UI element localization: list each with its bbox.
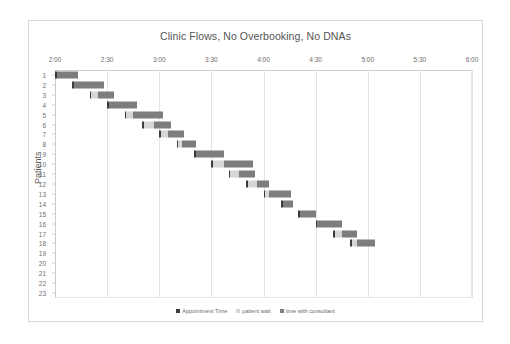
x-tick-label: 3:00 [153,56,166,63]
bar-segment-time-with-consultant [133,111,163,118]
gridline [420,70,421,298]
y-tick-label: 12 [39,181,46,188]
legend-swatch-icon [236,309,240,313]
y-tick-mark [52,293,55,294]
bar-segment-time-with-consultant [283,200,293,207]
y-tick-label: 7 [42,131,46,138]
chart-title: Clinic Flows, No Overbooking, No DNAs [28,30,483,42]
y-tick-label: 19 [39,250,46,257]
y-tick-label: 18 [39,240,46,247]
y-tick-mark [52,94,55,95]
y-tick-mark [52,223,55,224]
y-tick-label: 22 [39,280,46,287]
y-tick-label: 8 [42,141,46,148]
y-tick-mark [52,283,55,284]
bar-segment-time-with-consultant [257,181,269,188]
x-tick-label: 4:00 [257,56,270,63]
y-tick-label: 20 [39,260,46,267]
y-tick-label: 6 [42,121,46,128]
bar-segment-patient-wait [230,171,239,178]
y-tick-mark [52,134,55,135]
bar-segment-patient-wait [126,111,133,118]
bar-segment-patient-wait [248,181,257,188]
y-tick-mark [52,263,55,264]
bar-segment-time-with-consultant [154,121,171,128]
y-tick-label: 16 [39,220,46,227]
y-tick-label: 14 [39,200,46,207]
bar-segment-time-with-consultant [109,101,137,108]
x-tick-label: 5:30 [414,56,427,63]
y-tick-mark [52,243,55,244]
x-tick-label: 5:00 [361,56,374,63]
bar-segment-time-with-consultant [74,81,104,88]
chart-legend: Appointment Timepatient waittime with co… [28,308,483,314]
y-tick-label: 2 [42,81,46,88]
y-tick-mark [52,193,55,194]
bar-segment-patient-wait [161,131,168,138]
y-tick-label: 1 [42,71,46,78]
y-tick-mark [52,124,55,125]
gridline [211,70,212,298]
legend-swatch-icon [176,309,180,313]
bar-segment-time-with-consultant [269,190,292,197]
y-tick-label: 13 [39,190,46,197]
bar-segment-time-with-consultant [300,210,316,217]
gridline [159,70,160,298]
bar-segment-time-with-consultant [168,131,184,138]
gridline [368,70,369,298]
y-tick-mark [52,233,55,234]
y-tick-mark [52,164,55,165]
y-tick-label: 3 [42,91,46,98]
x-tick-label: 3:30 [205,56,218,63]
x-tick-label: 6:00 [466,56,479,63]
y-tick-label: 23 [39,290,46,297]
gridline [472,70,473,298]
gridline [316,70,317,298]
bar-segment-time-with-consultant [57,71,78,78]
y-tick-label: 10 [39,161,46,168]
y-tick-label: 5 [42,111,46,118]
bar-segment-time-with-consultant [357,240,374,247]
bar-segment-time-with-consultant [317,220,341,227]
bar-segment-time-with-consultant [224,161,254,168]
x-tick-label: 4:30 [309,56,322,63]
bar-segment-patient-wait [335,230,342,237]
y-tick-label: 9 [42,151,46,158]
y-tick-label: 17 [39,230,46,237]
bar-segment-time-with-consultant [239,171,255,178]
y-tick-mark [52,213,55,214]
legend-item[interactable]: time with consultant [280,308,335,314]
bar-segment-time-with-consultant [342,230,358,237]
y-tick-mark [52,184,55,185]
legend-swatch-icon [280,309,284,313]
bar-segment-time-with-consultant [196,151,224,158]
x-tick-label: 2:00 [49,56,62,63]
legend-item[interactable]: Appointment Time [176,308,227,314]
x-tick-label: 2:30 [101,56,114,63]
y-tick-mark [52,273,55,274]
y-tick-label: 11 [39,171,46,178]
y-tick-mark [52,154,55,155]
bar-segment-time-with-consultant [98,91,114,98]
plot-area: 2:002:303:003:304:004:305:005:306:00 123… [55,70,472,298]
y-tick-label: 15 [39,210,46,217]
y-tick-mark [52,203,55,204]
y-tick-mark [52,104,55,105]
y-tick-mark [52,253,55,254]
legend-label: time with consultant [286,308,335,314]
legend-label: patient wait [242,308,270,314]
y-tick-mark [52,84,55,85]
y-tick-mark [52,174,55,175]
bar-segment-patient-wait [144,121,154,128]
legend-item[interactable]: patient wait [236,308,270,314]
y-tick-mark [52,144,55,145]
y-tick-mark [52,114,55,115]
y-tick-label: 4 [42,101,46,108]
bar-segment-patient-wait [91,91,98,98]
legend-label: Appointment Time [182,308,227,314]
bar-segment-time-with-consultant [182,141,196,148]
y-tick-label: 21 [39,270,46,277]
bar-segment-patient-wait [213,161,223,168]
